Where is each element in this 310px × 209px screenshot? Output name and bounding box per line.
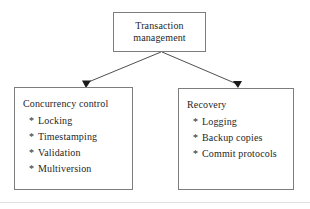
bullet-icon: * (193, 146, 202, 162)
bullet-icon: * (29, 161, 38, 177)
arrow-root-to-recovery (162, 52, 242, 88)
arrow-root-to-concurrency (82, 52, 161, 88)
arrow-line-left (86, 52, 161, 83)
bullet-icon: * (29, 113, 38, 129)
node-recovery: Recovery *Logging *Backup copies *Commit… (178, 88, 294, 190)
node-root-title-line-2: management (133, 32, 186, 45)
node-recovery-list: *Logging *Backup copies *Commit protocol… (187, 114, 293, 162)
bullet-icon: * (29, 145, 38, 161)
bullet-icon: * (193, 130, 202, 146)
node-root-title-line-1: Transaction (135, 20, 184, 33)
list-item-label: Timestamping (38, 131, 97, 142)
list-item: *Multiversion (23, 161, 132, 177)
arrow-head-right-icon (233, 81, 242, 88)
list-item: *Locking (23, 113, 132, 129)
list-item: *Backup copies (187, 130, 293, 146)
node-transaction-management: Transaction management (113, 12, 206, 52)
list-item-label: Logging (202, 116, 237, 127)
diagram-canvas: Transaction management Concurrency contr… (0, 0, 310, 209)
list-item: *Commit protocols (187, 146, 293, 162)
node-concurrency-heading: Concurrency control (23, 97, 132, 110)
list-item: *Validation (23, 145, 132, 161)
list-item-label: Commit protocols (202, 148, 277, 159)
list-item-label: Locking (38, 115, 72, 126)
node-concurrency-control: Concurrency control *Locking *Timestampi… (14, 87, 133, 190)
page-bottom-rule (0, 202, 310, 203)
list-item-label: Validation (38, 147, 81, 158)
list-item: *Logging (187, 114, 293, 130)
bullet-icon: * (29, 129, 38, 145)
bullet-icon: * (193, 114, 202, 130)
list-item: *Timestamping (23, 129, 132, 145)
list-item-label: Multiversion (38, 163, 91, 174)
arrow-line-right (162, 52, 237, 84)
list-item-label: Backup copies (202, 132, 263, 143)
node-concurrency-list: *Locking *Timestamping *Validation *Mult… (23, 113, 132, 177)
node-recovery-heading: Recovery (187, 98, 293, 111)
